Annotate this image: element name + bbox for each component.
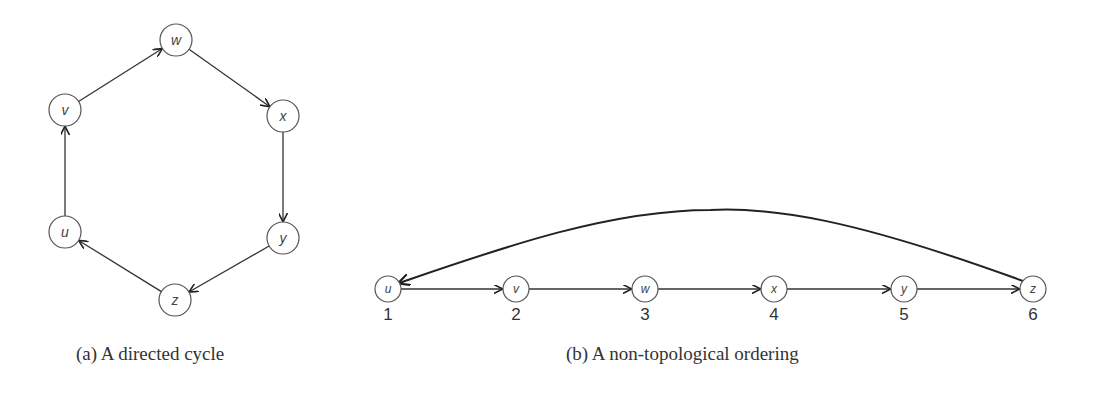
- order-number: 5: [899, 305, 908, 324]
- node-label: u: [385, 282, 392, 296]
- node-y: y: [891, 276, 917, 302]
- non-topological-ordering-graph: u1v2w3x4y5z6: [375, 210, 1046, 324]
- node-x: x: [267, 100, 299, 132]
- node-v: v: [503, 276, 529, 302]
- node-z: z: [1020, 276, 1046, 302]
- edge-v-w: [79, 49, 162, 101]
- node-w: w: [160, 24, 192, 56]
- back-edge-z-u: [399, 210, 1023, 283]
- node-x: x: [761, 276, 787, 302]
- node-w: w: [632, 276, 658, 302]
- order-number: 1: [383, 305, 392, 324]
- edge-w-x: [189, 49, 269, 106]
- node-y: y: [267, 222, 299, 254]
- node-label: y: [900, 282, 908, 296]
- node-label: w: [171, 32, 182, 48]
- node-label: z: [1029, 282, 1036, 296]
- node-label: v: [62, 102, 70, 118]
- node-u: u: [49, 216, 81, 248]
- node-label: x: [770, 282, 778, 296]
- node-u: u: [375, 276, 401, 302]
- node-label: z: [171, 292, 179, 308]
- node-z: z: [159, 284, 191, 316]
- node-label: u: [61, 224, 69, 240]
- node-label: w: [641, 282, 651, 296]
- edge-z-u: [79, 241, 161, 292]
- directed-cycle-graph: wvxuyz: [49, 24, 299, 316]
- diagram-canvas: wvxuyz u1v2w3x4y5z6: [0, 0, 1094, 397]
- order-number: 6: [1028, 305, 1037, 324]
- caption-b: (b) A non-topological ordering: [566, 343, 799, 365]
- node-label: y: [279, 230, 288, 246]
- node-label: x: [279, 108, 288, 124]
- node-v: v: [49, 94, 81, 126]
- node-label: v: [513, 282, 520, 296]
- order-number: 3: [640, 305, 649, 324]
- order-number: 2: [511, 305, 520, 324]
- order-number: 4: [769, 305, 778, 324]
- edge-y-z: [190, 246, 269, 292]
- caption-a: (a) A directed cycle: [76, 343, 224, 365]
